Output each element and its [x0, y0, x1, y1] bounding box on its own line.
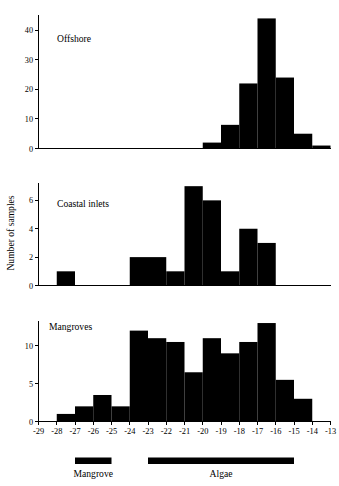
x-tick-label: -22	[161, 427, 172, 436]
x-tick-label: -29	[33, 427, 44, 436]
y-tick-label: 20	[25, 85, 33, 94]
histogram-bar	[294, 134, 312, 149]
histogram-bar	[221, 353, 239, 421]
histogram-bar	[276, 78, 294, 149]
histogram-bar	[221, 125, 239, 149]
panel-title: Offshore	[57, 33, 91, 44]
histogram-bar	[239, 83, 257, 148]
y-axis-title: Number of samples	[5, 195, 16, 270]
chart-panel-3: 0510Mangroves	[25, 321, 331, 427]
histogram-bar	[75, 406, 93, 421]
histogram-bar	[239, 229, 257, 286]
histogram-bar	[294, 399, 312, 422]
histogram-bar	[148, 257, 166, 285]
histogram-figure: 010203040Offshore0246Coastal inlets0510M…	[0, 0, 339, 486]
x-tick-label: -18	[234, 427, 245, 436]
legend-label-mangrove: Mangrove	[74, 468, 113, 479]
x-tick-label: -15	[288, 427, 299, 436]
histogram-bar	[203, 143, 221, 149]
x-axis-ticks: -29-28-27-26-25-24-23-22-21-20-19-18-17-…	[33, 422, 336, 437]
y-tick-label: 10	[25, 342, 33, 351]
histogram-bar	[130, 331, 148, 422]
y-tick-label: 0	[29, 418, 33, 427]
panel-title: Mangroves	[49, 321, 92, 332]
chart-panel-2: 0246Coastal inlets	[29, 183, 331, 291]
y-tick-label: 6	[29, 196, 33, 205]
x-tick-label: -13	[325, 427, 336, 436]
figure-canvas: 010203040Offshore0246Coastal inlets0510M…	[0, 0, 339, 486]
histogram-bar	[148, 338, 166, 421]
histogram-bar	[221, 271, 239, 285]
y-tick-label: 30	[25, 56, 33, 65]
x-tick-label: -19	[215, 427, 226, 436]
x-tick-label: -14	[307, 427, 319, 436]
x-tick-label: -24	[124, 427, 136, 436]
y-tick-label: 2	[29, 253, 33, 262]
x-tick-label: -17	[252, 427, 263, 436]
x-tick-label: -25	[106, 427, 117, 436]
histogram-bar	[57, 414, 75, 422]
y-tick-label: 4	[29, 225, 33, 234]
y-tick-label: 5	[29, 380, 33, 389]
histogram-bars	[57, 323, 313, 421]
histogram-bar	[276, 380, 294, 422]
histogram-bar	[312, 146, 330, 149]
histogram-bar	[185, 186, 203, 285]
x-tick-label: -23	[142, 427, 153, 436]
x-tick-label: -16	[270, 427, 281, 436]
y-tick-label: 0	[29, 282, 33, 291]
y-tick-label: 10	[25, 115, 33, 124]
histogram-bar	[239, 342, 257, 422]
x-tick-label: -21	[179, 427, 190, 436]
histogram-bar	[112, 406, 130, 421]
legend-label-algae: Algae	[210, 468, 233, 479]
histogram-bar	[258, 323, 276, 421]
x-tick-label: -26	[88, 427, 99, 436]
x-tick-label: -20	[197, 427, 208, 436]
x-tick-label: -27	[69, 427, 80, 436]
histogram-bar	[258, 243, 276, 286]
histogram-bar	[57, 271, 75, 285]
legend-range-bar-mangrove	[75, 458, 112, 465]
x-tick-label: -28	[51, 427, 62, 436]
y-tick-label: 0	[29, 145, 33, 154]
histogram-bars	[203, 18, 331, 148]
legend-range-bar-algae	[148, 458, 294, 465]
histogram-bar	[130, 257, 148, 285]
y-tick-label: 40	[25, 26, 33, 35]
histogram-bar	[203, 338, 221, 421]
histogram-bar	[166, 271, 184, 285]
panel-title: Coastal inlets	[57, 198, 109, 209]
histogram-bar	[93, 395, 111, 422]
legend: MangroveAlgae	[74, 458, 294, 480]
histogram-bar	[185, 372, 203, 421]
histogram-bar	[258, 18, 276, 148]
histogram-bar	[166, 342, 184, 422]
histogram-bar	[203, 200, 221, 285]
chart-panel-1: 010203040Offshore	[25, 15, 331, 154]
